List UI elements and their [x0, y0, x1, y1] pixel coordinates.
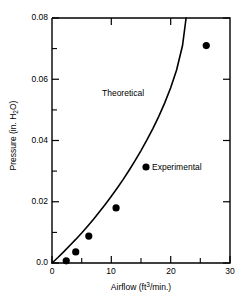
axis-frame [52, 18, 230, 263]
y-tick-label-3: 0.06 [14, 75, 48, 84]
x-axis-title-pre: Airflow (ft [111, 282, 146, 292]
x-tick-label-2: 20 [161, 267, 181, 276]
data-point [112, 204, 119, 211]
data-point [85, 232, 92, 239]
data-point [203, 42, 210, 49]
experimental-data-points [63, 42, 210, 264]
y-tick-label-2: 0.04 [14, 136, 48, 145]
theoretical-annotation-label: Theoretical [102, 88, 144, 98]
data-point [72, 248, 79, 255]
x-axis-title-sup: 3 [146, 281, 150, 288]
x-tick-label-1: 10 [101, 267, 121, 276]
legend-marker-experimental [142, 163, 149, 170]
plot-border [52, 18, 230, 263]
x-axis-title-post: /min.) [150, 282, 171, 292]
y-major-ticks [52, 18, 59, 263]
y-axis-title-post: O) [8, 101, 18, 110]
y-axis-title-pre: Pressure (in. H [8, 114, 18, 171]
x-axis-title: Airflow (ft3/min.) [52, 282, 230, 293]
x-top-ticks [111, 18, 170, 25]
data-point [63, 257, 70, 264]
y-axis-title-sub: 2 [12, 110, 19, 114]
y-tick-label-0: 0.0 [14, 258, 48, 267]
theoretical-curve [52, 18, 186, 263]
experimental-legend-label: Experimental [152, 162, 202, 172]
x-tick-label-3: 30 [220, 267, 240, 276]
x-tick-label-0: 0 [42, 267, 62, 276]
y-tick-label-4: 0.08 [14, 13, 48, 22]
y-tick-label-1: 0.02 [14, 197, 48, 206]
chart-figure: 0.0 0.02 0.04 0.06 0.08 0 10 20 30 Press… [0, 0, 248, 303]
y-axis-title: Pressure (in. H2O) [8, 76, 19, 196]
x-minor-ticks [82, 258, 201, 263]
y-right-ticks [223, 18, 230, 263]
